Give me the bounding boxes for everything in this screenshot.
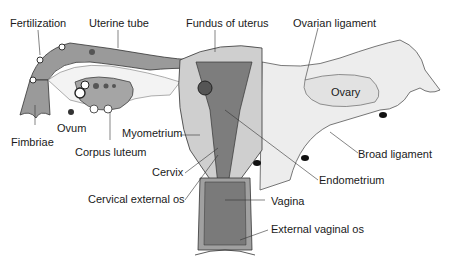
label-ovarian-ligament: Ovarian ligament xyxy=(293,17,376,29)
ovum-dot xyxy=(68,109,74,115)
label-broad-ligament: Broad ligament xyxy=(358,148,432,160)
label-vagina: Vagina xyxy=(271,195,304,207)
reproductive-diagram: Fertilization Uterine tube Fundus of ute… xyxy=(0,0,450,267)
label-fertilization: Fertilization xyxy=(10,17,66,29)
label-fundus: Fundus of uterus xyxy=(186,17,269,29)
label-external-vaginal-os: External vaginal os xyxy=(271,223,364,235)
label-cervix: Cervix xyxy=(152,166,183,178)
label-fimbriae: Fimbriae xyxy=(11,136,54,148)
label-corpus-luteum: Corpus luteum xyxy=(75,146,147,158)
label-cervical-external-os: Cervical external os xyxy=(88,193,185,205)
label-ovum: Ovum xyxy=(57,122,86,134)
broad-ligament-shape xyxy=(260,40,440,190)
label-uterine-tube: Uterine tube xyxy=(89,17,149,29)
label-myometrium: Myometrium xyxy=(122,127,183,139)
label-ovary: Ovary xyxy=(331,86,360,98)
label-endometrium: Endometrium xyxy=(319,174,384,186)
ligament-dark-spot xyxy=(379,112,387,118)
